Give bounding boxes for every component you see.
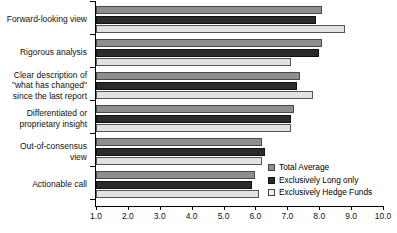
bar	[96, 16, 316, 24]
x-axis-tick-label: 6.0	[240, 211, 270, 221]
x-axis-tick-label: 10.0	[368, 211, 397, 221]
x-axis-tick	[96, 206, 97, 210]
x-axis-tick	[160, 206, 161, 210]
x-axis-tick	[383, 206, 384, 210]
bar	[96, 190, 259, 198]
x-axis-tick-label: 4.0	[177, 211, 207, 221]
bar	[96, 72, 300, 80]
x-axis-tick-label: 8.0	[304, 211, 334, 221]
chart-legend: Total AverageExclusively Long onlyExclus…	[268, 162, 372, 200]
legend-swatch	[268, 189, 275, 196]
category-label: Clear description of "what has changed" …	[12, 70, 87, 102]
bar	[96, 115, 291, 123]
x-axis-tick-label: 2.0	[113, 211, 143, 221]
x-axis-tick-label: 9.0	[336, 211, 366, 221]
bar	[96, 105, 294, 113]
legend-swatch	[268, 164, 275, 171]
x-axis-tick-label: 7.0	[272, 211, 302, 221]
bar-chart: Forward-looking viewRigorous analysisCle…	[0, 0, 397, 233]
x-axis-tick	[128, 206, 129, 210]
bar	[96, 58, 291, 66]
x-axis-tick	[224, 206, 225, 210]
bar	[96, 49, 319, 57]
legend-label: Exclusively Long only	[279, 175, 358, 187]
legend-swatch	[268, 177, 275, 184]
bar	[96, 148, 265, 156]
x-axis-tick	[351, 206, 352, 210]
category-label: Actionable call	[32, 179, 87, 190]
bar	[96, 181, 252, 189]
bar	[96, 91, 313, 99]
x-axis-tick	[319, 206, 320, 210]
bar	[96, 25, 345, 33]
x-axis-tick	[287, 206, 288, 210]
bar	[96, 124, 291, 132]
category-label: Rigorous analysis	[20, 47, 87, 58]
x-axis-tick-label: 5.0	[209, 211, 239, 221]
category-label: Out-of-consensus view	[20, 141, 87, 162]
bar	[96, 138, 262, 146]
legend-label: Exclusively Hedge Funds	[279, 187, 372, 199]
legend-item: Exclusively Hedge Funds	[268, 187, 372, 199]
x-axis-tick-label: 1.0	[81, 211, 111, 221]
legend-item: Exclusively Long only	[268, 175, 372, 187]
legend-item: Total Average	[268, 162, 372, 174]
x-axis-tick-label: 3.0	[145, 211, 175, 221]
legend-label: Total Average	[279, 162, 329, 174]
x-axis-tick	[192, 206, 193, 210]
bar	[96, 39, 322, 47]
bar	[96, 171, 255, 179]
bar	[96, 6, 322, 14]
bar	[96, 157, 262, 165]
category-label: Forward-looking view	[7, 14, 87, 25]
category-label: Differentiated or proprietary insight	[19, 108, 87, 129]
x-axis-tick	[255, 206, 256, 210]
x-axis-line	[95, 206, 384, 207]
bar	[96, 82, 297, 90]
